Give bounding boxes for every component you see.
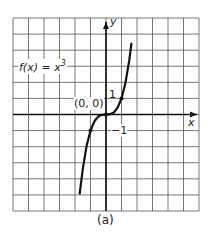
caption: (a): [97, 213, 114, 227]
point-marker: [120, 96, 124, 100]
y-axis-label: y: [110, 15, 117, 28]
function-label: f(x) = x3: [18, 59, 67, 74]
tick-label-1: 1: [109, 88, 116, 101]
point-marker: [89, 129, 93, 133]
x-axis-label: x: [188, 116, 195, 129]
origin-label: (0, 0): [74, 97, 104, 110]
point-marker: [104, 113, 108, 117]
tick-label-neg1: −1: [111, 124, 127, 137]
y-axis-arrow-icon: [103, 22, 109, 29]
cubic-graph: [0, 0, 210, 239]
function-text: f(x) = x: [19, 61, 61, 74]
function-exponent: 3: [61, 59, 66, 68]
